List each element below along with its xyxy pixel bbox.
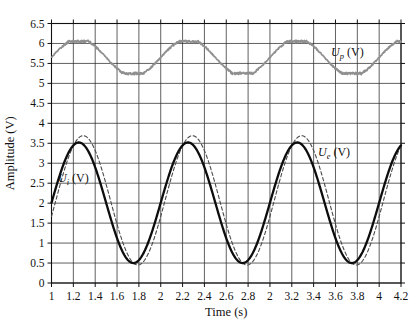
y-tick-label: 1 — [39, 237, 45, 249]
x-tick-label: 4.2 — [394, 290, 409, 302]
y-tick-label: 2 — [39, 197, 45, 209]
x-tick-label: 2.8 — [241, 290, 256, 302]
x-tick-label: 3.2 — [285, 290, 300, 302]
y-tick-label: 4 — [39, 117, 45, 129]
y-tick-label: 6 — [39, 37, 45, 49]
y-tick-label: 2.5 — [30, 177, 45, 189]
y-tick-label: 0.5 — [30, 257, 45, 269]
x-tick-label: 2.4 — [197, 290, 212, 302]
curve-label-Up: Up (V) — [331, 45, 364, 61]
y-tick-label: 5.5 — [30, 57, 45, 69]
y-tick-label: 6.5 — [30, 18, 45, 30]
y-tick-label: 1.5 — [30, 217, 45, 229]
x-tick-label: 1.4 — [88, 290, 103, 302]
x-tick-label: 3.4 — [306, 290, 321, 302]
oscilloscope-voltage-chart: 11.21.41.61.822.22.42.62.823.23.43.63.84… — [0, 0, 419, 332]
curve-label-Ui: Ui (V) — [58, 171, 89, 187]
x-tick-labels: 11.21.41.61.822.22.42.62.823.23.43.63.84… — [49, 290, 409, 302]
x-axis-title: Time (s) — [205, 305, 247, 319]
y-axis-title: Amplitude (V) — [3, 116, 17, 190]
x-tick-label: 2.6 — [219, 290, 234, 302]
x-tick-label: 2.2 — [175, 290, 190, 302]
y-tick-label: 3.5 — [30, 137, 45, 149]
x-tick-label: 1 — [49, 290, 55, 302]
y-tick-label: 0 — [39, 277, 45, 289]
y-tick-label: 3 — [39, 157, 45, 169]
x-tick-label: 2 — [267, 290, 273, 302]
x-tick-label: 1.6 — [110, 290, 125, 302]
y-tick-label: 5 — [39, 77, 45, 89]
x-tick-label: 3.8 — [350, 290, 365, 302]
x-tick-label: 1.2 — [66, 290, 81, 302]
y-tick-labels: 00.511.522.533.544.555.566.5 — [30, 18, 45, 290]
x-tick-label: 3.6 — [328, 290, 343, 302]
x-tick-label: 4 — [376, 290, 382, 302]
x-tick-label: 1.8 — [132, 290, 147, 302]
curve-label-Ue: Ue (V) — [318, 145, 350, 161]
x-tick-label: 2 — [158, 290, 164, 302]
chart-canvas: 11.21.41.61.822.22.42.62.823.23.43.63.84… — [0, 0, 419, 332]
y-tick-label: 4.5 — [30, 97, 45, 109]
